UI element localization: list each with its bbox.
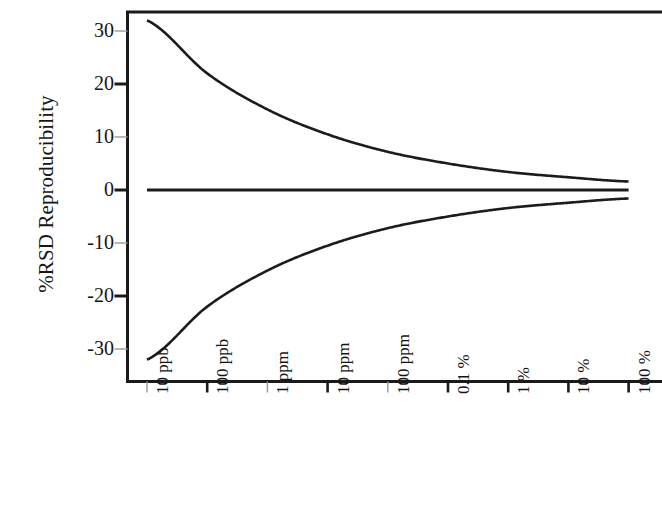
- axis-frame: [126, 11, 662, 383]
- series-line: [147, 20, 629, 181]
- series-line: [147, 198, 629, 359]
- chart-figure: %RSD Reproducibility 3020100-10-20-30 10…: [0, 0, 662, 524]
- y-axis-ticks: [115, 31, 128, 349]
- x-axis-ticks: [147, 382, 629, 393]
- data-series-lines: [147, 20, 629, 359]
- plot-area: [0, 0, 662, 524]
